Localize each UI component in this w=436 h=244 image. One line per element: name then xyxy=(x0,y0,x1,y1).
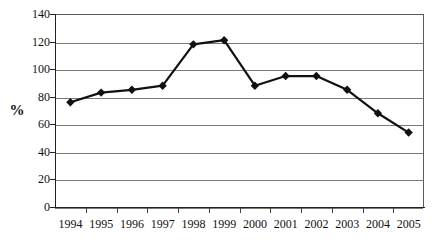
x-axis-tick-mark xyxy=(363,208,364,213)
y-axis-tick-label: 140 xyxy=(14,8,50,20)
x-axis-tick-mark xyxy=(332,208,333,213)
data-series-line xyxy=(55,14,424,207)
data-point-marker xyxy=(128,86,136,94)
x-axis-tick-mark xyxy=(270,208,271,213)
y-axis-tick-label: 0 xyxy=(14,201,50,213)
x-axis-tick-mark xyxy=(209,208,210,213)
x-axis-tick-mark xyxy=(393,208,394,213)
x-axis-tick-labels: 1994199519961997199819992000200120022003… xyxy=(55,218,424,238)
x-axis-tick-label: 2005 xyxy=(388,218,430,231)
y-axis-tick-mark xyxy=(50,42,56,43)
y-axis-tick-mark xyxy=(50,69,56,70)
y-axis-tick-mark xyxy=(50,207,56,208)
x-axis-tick-mark xyxy=(301,208,302,213)
x-axis-tick-mark xyxy=(117,208,118,213)
y-axis-tick-mark xyxy=(50,124,56,125)
series-line xyxy=(70,40,408,132)
y-axis-tick-label: 20 xyxy=(14,173,50,185)
y-axis-tick-mark xyxy=(50,179,56,180)
data-point-marker xyxy=(312,72,320,80)
y-axis-tick-mark xyxy=(50,97,56,98)
data-point-marker xyxy=(66,98,74,106)
y-axis-tick-labels: 020406080100120140 xyxy=(14,0,50,244)
y-axis-tick-label: 120 xyxy=(14,36,50,48)
data-point-marker xyxy=(281,72,289,80)
x-axis-tick-mark xyxy=(178,208,179,213)
y-axis-tick-label: 40 xyxy=(14,146,50,158)
data-point-marker xyxy=(97,88,105,96)
y-axis-tick-label: 100 xyxy=(14,63,50,75)
y-axis-tick-label: 60 xyxy=(14,118,50,130)
x-axis-tick-mark xyxy=(240,208,241,213)
x-axis-tick-mark xyxy=(147,208,148,213)
y-axis-tick-label: 80 xyxy=(14,91,50,103)
line-chart: % 020406080100120140 1994199519961997199… xyxy=(0,0,436,244)
x-axis-tick-mark xyxy=(86,208,87,213)
y-axis-tick-mark xyxy=(50,14,56,15)
y-axis-tick-mark xyxy=(50,152,56,153)
